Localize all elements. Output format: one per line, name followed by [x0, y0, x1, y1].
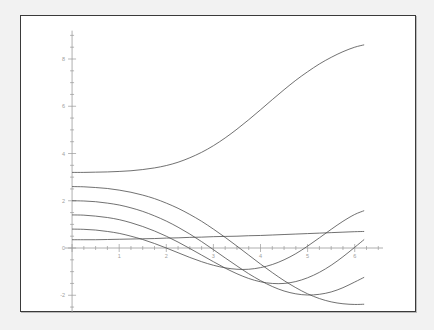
plot-frame: -202468123456 — [20, 15, 416, 312]
x-tick-label: 5 — [306, 253, 309, 259]
chart-canvas: -202468123456 — [21, 16, 417, 313]
x-tick-label: 3 — [212, 253, 215, 259]
x-tick-label: 2 — [165, 253, 168, 259]
x-tick-label: 4 — [259, 253, 262, 259]
y-tick-label: 6 — [62, 103, 65, 109]
solution-curve-0 — [72, 45, 364, 173]
solution-curve-3 — [72, 215, 364, 284]
plot-area: -202468123456 — [21, 16, 417, 313]
y-tick-label: 4 — [62, 151, 65, 157]
figure-root: -202468123456 — [0, 0, 434, 330]
x-tick-label: 6 — [353, 253, 356, 259]
x-tick-label: 1 — [118, 253, 121, 259]
y-tick-label: -2 — [60, 292, 65, 298]
y-tick-label: 8 — [62, 56, 65, 62]
y-tick-label: 0 — [62, 245, 65, 251]
solution-curve-4 — [72, 211, 364, 270]
y-tick-label: 2 — [62, 198, 65, 204]
curves-group — [72, 45, 364, 305]
